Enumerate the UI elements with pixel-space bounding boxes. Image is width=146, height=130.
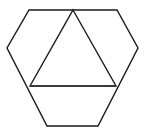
geometry-figure-canvas	[0, 0, 146, 130]
figure-background	[0, 0, 146, 130]
